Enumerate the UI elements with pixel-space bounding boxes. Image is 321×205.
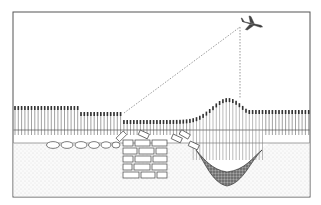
stone-row bbox=[47, 142, 121, 149]
crop-marks-diagram bbox=[0, 0, 321, 205]
